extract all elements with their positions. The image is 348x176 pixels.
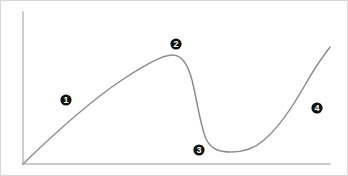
figure-border [1, 1, 348, 176]
marker-2: 2 [170, 38, 181, 49]
curve-diagram: 1234 [0, 0, 348, 176]
marker-2-disc [170, 38, 181, 49]
marker-3-disc [193, 144, 204, 155]
phase-curve [23, 47, 330, 164]
marker-4: 4 [311, 102, 322, 113]
marker-1-disc [60, 94, 71, 105]
marker-3: 3 [193, 144, 204, 155]
marker-4-disc [311, 102, 322, 113]
figure-root: 1234 [0, 0, 348, 176]
marker-1: 1 [60, 94, 71, 105]
